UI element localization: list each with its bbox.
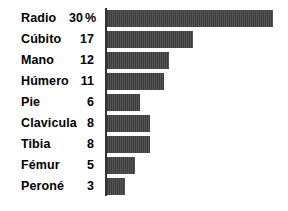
bar-value-number: 8 <box>87 137 94 151</box>
bar-cubito <box>107 31 193 48</box>
bar-femur <box>107 157 135 174</box>
bar-value-number: 5 <box>87 158 94 172</box>
bar-value-number: 30 <box>69 11 83 25</box>
bar-category-label: Cúbito <box>21 29 61 50</box>
bar-value-number: 12 <box>80 53 94 67</box>
chart-row: Peroné 3 <box>0 176 288 197</box>
bar-value-number: 6 <box>87 95 94 109</box>
chart-row: Clavicula 8 <box>0 113 288 134</box>
bar-value-label: 11 <box>60 71 96 92</box>
chart-row: Fémur 5 <box>0 155 288 176</box>
bar-value-number: 3 <box>87 179 94 193</box>
bar-category-label: Mano <box>21 50 54 71</box>
bar-value-unit <box>94 32 96 46</box>
bar-mano <box>107 52 169 69</box>
bar-value-number: 8 <box>87 116 94 130</box>
bar-value-label: 8 <box>60 113 96 134</box>
bar-value-label: 17 <box>60 29 96 50</box>
bar-tibia <box>107 136 150 153</box>
bar-value-unit <box>94 137 96 151</box>
chart-row: Pie 6 <box>0 92 288 113</box>
chart-row: Húmero 11 <box>0 71 288 92</box>
chart-row: Tibia 8 <box>0 134 288 155</box>
bar-value-unit <box>94 116 96 130</box>
bar-value-unit <box>94 95 96 109</box>
bar-value-unit <box>94 158 96 172</box>
chart-row: Cúbito 17 <box>0 29 288 50</box>
bar-value-unit <box>94 179 96 193</box>
bar-value-unit <box>94 74 96 88</box>
bar-category-label: Pie <box>21 92 40 113</box>
bar-radio <box>107 10 273 27</box>
bar-value-label: 8 <box>60 134 96 155</box>
bar-value-label: 6 <box>60 92 96 113</box>
bar-category-label: Peroné <box>21 176 64 197</box>
bar-humero <box>107 73 164 90</box>
bar-value-number: 17 <box>80 32 94 46</box>
bar-value-unit: % <box>83 11 96 25</box>
bar-clavicula <box>107 115 150 132</box>
bar-value-unit <box>94 53 96 67</box>
horizontal-bar-chart: Radio 30% Cúbito 17 Mano 12 Húmero 11 Pi… <box>0 0 288 211</box>
bar-category-label: Fémur <box>21 155 60 176</box>
bar-value-label: 12 <box>60 50 96 71</box>
bar-category-label: Radio <box>21 8 56 29</box>
chart-row: Mano 12 <box>0 50 288 71</box>
bar-category-label: Tibia <box>21 134 50 155</box>
chart-row: Radio 30% <box>0 8 288 29</box>
bar-value-label: 30% <box>60 8 96 29</box>
bar-perone <box>107 178 125 195</box>
bar-pie <box>107 94 140 111</box>
bar-value-number: 11 <box>81 74 94 88</box>
bar-value-label: 5 <box>60 155 96 176</box>
bar-value-label: 3 <box>60 176 96 197</box>
